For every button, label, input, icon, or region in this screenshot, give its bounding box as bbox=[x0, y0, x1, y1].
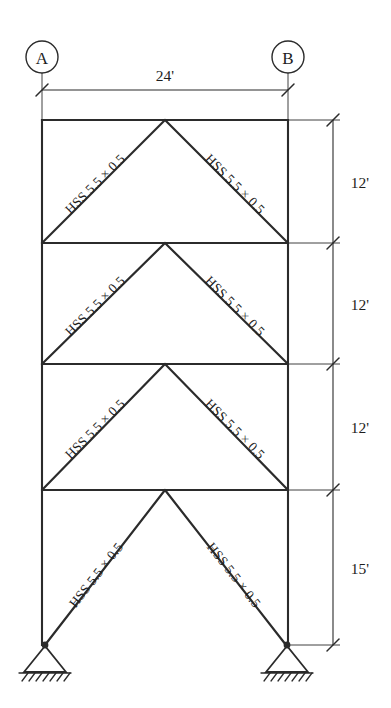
brace-label-story-1-right: HSS 5.5 × 0.5 bbox=[204, 540, 264, 611]
story-height-dimensions: 12' 12' 12' 15' bbox=[288, 114, 369, 651]
braced-frame-diagram: A B 24' HSS 5.5 × 0.5 HSS 5.5 × 0.5 HSS … bbox=[0, 0, 391, 708]
story-height-label-2: 12' bbox=[351, 419, 370, 436]
support-b-hatching bbox=[264, 673, 312, 681]
story-height-label-3: 12' bbox=[351, 296, 370, 313]
brace-label-story-4-left: HSS 5.5 × 0.5 bbox=[62, 151, 128, 217]
gridline-bubble-b: B bbox=[272, 41, 304, 120]
story-height-label-1: 15' bbox=[351, 560, 370, 577]
brace-label-story-3-right: HSS 5.5 × 0.5 bbox=[202, 273, 268, 339]
support-a bbox=[19, 642, 71, 681]
bracing-story-3: HSS 5.5 × 0.5 HSS 5.5 × 0.5 bbox=[42, 243, 288, 364]
gridline-bubble-a-label: A bbox=[36, 49, 49, 68]
brace-label-story-4-right: HSS 5.5 × 0.5 bbox=[202, 151, 268, 217]
span-dimension-label: 24' bbox=[156, 67, 175, 84]
brace-label-story-2-left: HSS 5.5 × 0.5 bbox=[62, 396, 128, 462]
support-a-triangle bbox=[24, 646, 66, 672]
bracing-story-1: HSS 5.5 × 0.5 HSS 5.5 × 0.5 bbox=[45, 490, 286, 645]
brace-label-story-2-right: HSS 5.5 × 0.5 bbox=[202, 396, 268, 462]
bracing-story-2: HSS 5.5 × 0.5 HSS 5.5 × 0.5 bbox=[42, 364, 288, 490]
support-a-hatching bbox=[22, 673, 70, 681]
story-height-label-4: 12' bbox=[351, 174, 370, 191]
brace-label-story-3-left: HSS 5.5 × 0.5 bbox=[62, 273, 128, 339]
gridline-bubble-a: A bbox=[26, 41, 58, 120]
support-b-triangle bbox=[266, 646, 308, 672]
gridline-bubble-b-label: B bbox=[282, 49, 293, 68]
span-dimension: 24' bbox=[36, 67, 294, 97]
bracing-story-4: HSS 5.5 × 0.5 HSS 5.5 × 0.5 bbox=[42, 120, 288, 243]
brace-label-story-1-left: HSS 5.5 × 0.5 bbox=[66, 539, 126, 610]
support-b bbox=[261, 642, 313, 681]
